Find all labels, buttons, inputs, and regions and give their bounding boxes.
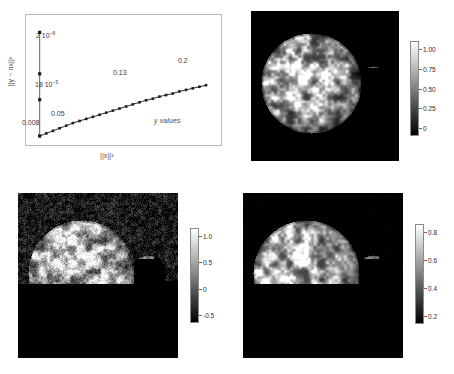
chart-data-point [105, 111, 108, 114]
colorbar-bottom-right: 0.80.60.40.2 [415, 224, 454, 324]
chart-data-point [205, 84, 208, 87]
colorbar-tick-labels: 1.00.50-0.5 [203, 228, 233, 323]
colorbar-tick-label: 0.50 [423, 85, 436, 92]
colorbar-tick-mark [199, 236, 202, 237]
chart-x-axis-label: ||x||² [100, 152, 114, 159]
chart-data-point [38, 98, 41, 101]
colorbar-tick-mark [424, 232, 427, 233]
chart-data-point [72, 122, 75, 125]
chart-data-point [132, 103, 135, 106]
chart-data-point [151, 97, 154, 100]
annotation-mantissa: 2 10 [36, 32, 50, 39]
chart-annotation-x-first: 0.008 [22, 119, 40, 126]
colorbar-tick-mark [419, 108, 422, 109]
colorbar-tick-labels: 1.000.750.500.250 [423, 41, 453, 136]
colorbar-tick-mark [199, 315, 202, 316]
colorbar-tick-label: 0.2 [428, 313, 437, 320]
chart-data-point [92, 116, 95, 119]
colorbar-tick-mark [419, 128, 422, 129]
chart-data-point [185, 89, 188, 92]
chart-annotation-x-fourth: 0.2 [178, 57, 188, 64]
image-earth-reconstructed [243, 193, 403, 358]
colorbar-tick-mark [419, 89, 422, 90]
image-earth-noisy [18, 193, 178, 358]
colorbar-tick-mark [424, 288, 427, 289]
colorbar-tick-mark [424, 260, 427, 261]
panel-scatter-chart: ||y − nx||² ||x||² 2 10−6 18 10−5 0.008 … [0, 0, 240, 185]
chart-data-point [78, 120, 81, 123]
chart-data-point [125, 105, 128, 108]
chart-series-annotation: y values [154, 117, 180, 124]
chart-data-point [178, 90, 181, 93]
colorbar-tick-mark [419, 49, 422, 50]
chart-data-point [85, 118, 88, 121]
colorbar-tick-mark [424, 316, 427, 317]
chart-data-point [52, 130, 55, 133]
colorbar-tick-label: 0.5 [203, 259, 212, 266]
chart-annotation-x-third: 0.13 [113, 69, 127, 76]
annotation-mantissa: 18 10 [35, 81, 53, 88]
colorbar-tick-labels: 0.80.60.40.2 [428, 224, 454, 324]
colorbar-tick-label: 0.4 [428, 285, 437, 292]
chart-data-point [98, 113, 101, 116]
colorbar-tick-label: 0.8 [428, 229, 437, 236]
colorbar-tick-label: 0.6 [428, 257, 437, 264]
chart-annotation-peak-upper: 2 10−6 [36, 30, 55, 39]
colorbar-gradient [410, 41, 419, 136]
panel-earth-reconstructed: 0.80.60.40.2 [235, 188, 454, 368]
annotation-exponent: −5 [53, 79, 59, 85]
chart-annotation-peak-lower: 18 10−5 [35, 79, 58, 88]
colorbar-tick-mark [199, 262, 202, 263]
panel-earth-grayscale: 1.000.750.500.250 [245, 5, 454, 175]
panel-earth-noisy: 1.00.50-0.5 [10, 188, 230, 368]
chart-data-point [191, 87, 194, 90]
chart-data-point [65, 124, 68, 127]
chart-annotation-x-second: 0.05 [51, 110, 65, 117]
colorbar-bottom-left: 1.00.50-0.5 [190, 228, 230, 323]
colorbar-top-right: 1.000.750.500.250 [410, 41, 450, 136]
chart-data-point [45, 132, 48, 135]
chart-data-point [38, 72, 41, 75]
colorbar-tick-label: 0.25 [423, 105, 436, 112]
earth-grayscale-canvas [251, 11, 399, 161]
colorbar-gradient [415, 224, 424, 324]
figure-canvas: ||y − nx||² ||x||² 2 10−6 18 10−5 0.008 … [0, 0, 454, 374]
colorbar-tick-label: 0 [423, 125, 427, 132]
chart-data-point [38, 135, 41, 138]
colorbar-tick-label: -0.5 [203, 312, 214, 319]
colorbar-tick-label: 1.00 [423, 45, 436, 52]
colorbar-gradient [190, 228, 199, 323]
image-earth-grayscale [251, 11, 399, 161]
colorbar-tick-label: 1.0 [203, 232, 212, 239]
chart-data-point [118, 107, 121, 110]
chart-data-point [158, 95, 161, 98]
chart-data-point [165, 94, 168, 97]
annotation-exponent: −6 [50, 30, 56, 36]
chart-data-point [138, 101, 141, 104]
chart-data-point [198, 85, 201, 88]
chart-y-axis-label: ||y − nx||² [7, 49, 14, 95]
colorbar-tick-label: 0.75 [423, 65, 436, 72]
colorbar-tick-mark [419, 69, 422, 70]
chart-data-point [58, 127, 61, 130]
colorbar-tick-mark [199, 289, 202, 290]
chart-data-point [112, 109, 115, 112]
chart-data-point [145, 99, 148, 102]
earth-noisy-canvas [18, 193, 178, 358]
chart-data-point [171, 92, 174, 95]
earth-reconstructed-canvas [243, 193, 403, 358]
colorbar-tick-label: 0 [203, 285, 207, 292]
